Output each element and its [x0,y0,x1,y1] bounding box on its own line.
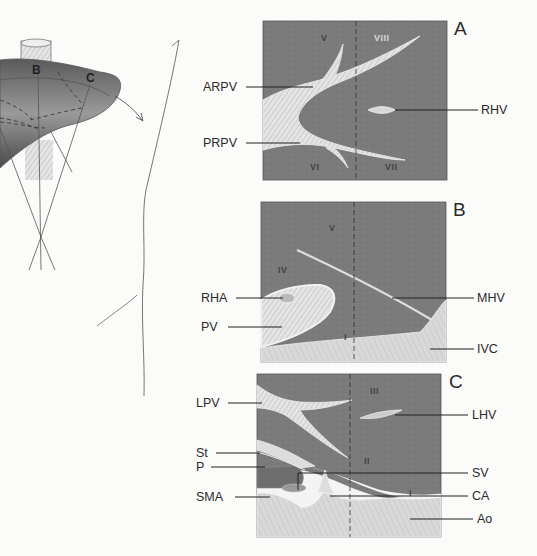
label-rha: RHA [201,292,227,305]
segment-label: I [409,489,412,498]
plane-label-c: C [86,72,95,84]
panel-b [228,202,474,362]
segment-label: V [329,224,336,233]
label-lhv: LHV [472,409,496,422]
label-lpv: LPV [196,397,220,410]
label-ao: Ao [477,513,492,526]
segment-label: III [370,387,379,396]
label-rhv: RHV [481,104,507,117]
segment-label: V [321,34,328,43]
segment-label: II [364,457,370,466]
label-prpv: PRPV [203,137,237,150]
segment-label: I [344,333,347,342]
panel-a-letter: A [454,19,467,38]
label-ca: CA [472,490,489,503]
label-pv: PV [201,321,218,334]
label-sma: SMA [196,491,223,504]
panel-a [246,21,478,180]
label-ivc: IVC [477,343,498,356]
label-mhv: MHV [477,292,505,305]
plane-label-b: B [32,64,41,76]
label-st: St [196,447,208,460]
panel-b-letter: B [453,200,466,219]
segment-label: IV [278,266,288,275]
label-sv: SV [472,467,489,480]
body-outline [142,40,179,396]
panel-c-letter: C [449,372,463,391]
label-arpv: ARPV [203,81,237,94]
panel-c [211,374,473,537]
anatomy-figure [0,0,537,556]
label-p: P [196,461,204,474]
segment-label: VII [385,163,398,172]
overview-drawing [0,39,179,396]
segment-label: VIII [374,34,390,43]
segment-label: VI [310,163,320,172]
